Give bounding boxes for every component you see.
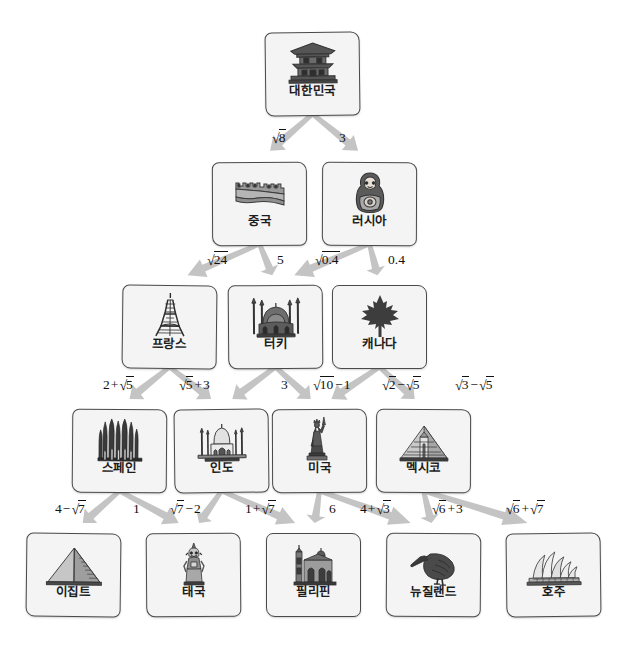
- edge-arrow-usa-to-philippines: [306, 491, 325, 523]
- edge-arrow-korea-to-russia: [311, 112, 358, 151]
- maple-leaf-icon: [333, 286, 426, 338]
- node-label: 필리핀: [296, 586, 331, 605]
- node-card-thailand[interactable]: 태국: [146, 533, 242, 618]
- edge-weight-usa-to-newzealand: 4+√3: [360, 502, 391, 516]
- edge-weight-mexico-to-newzealand: √6+3: [432, 502, 463, 516]
- node-label: 스페인: [102, 462, 137, 481]
- node-card-usa[interactable]: 미국: [272, 409, 367, 493]
- edge-weight-korea-to-russia: 3: [339, 131, 346, 145]
- edge-weight-canada-to-mexico: √3−√5: [455, 378, 494, 392]
- eiffel-tower-icon: [123, 285, 217, 338]
- node-card-india[interactable]: 인도: [174, 408, 270, 493]
- edge-arrow-russia-to-canada: [367, 243, 385, 275]
- node-label: 터키: [264, 338, 288, 357]
- node-label: 태국: [182, 586, 206, 605]
- edge-weight-france-to-spain: 2+√5: [103, 378, 134, 392]
- node-card-newzealand[interactable]: 뉴질랜드: [386, 533, 482, 618]
- edge-weight-russia-to-turkey: √0.4: [315, 253, 340, 267]
- node-label: 캐나다: [362, 338, 397, 357]
- edge-arrow-france-to-spain: [130, 365, 171, 399]
- node-label: 호주: [542, 586, 566, 605]
- node-card-russia[interactable]: 러시아: [322, 162, 417, 246]
- node-label: 러시아: [352, 215, 387, 234]
- edge-weight-canada-to-usa: √2−√5: [382, 378, 421, 392]
- great-wall-icon: [213, 163, 306, 215]
- node-card-spain[interactable]: 스페인: [72, 409, 168, 494]
- edge-weight-india-to-thailand: √7−2: [170, 502, 201, 516]
- edge-weight-russia-to-canada: 0.4: [388, 253, 405, 267]
- edge-weight-china-to-turkey: 5: [277, 253, 284, 267]
- node-label: 뉴질랜드: [410, 586, 457, 605]
- church-icon: [267, 534, 360, 586]
- edge-weight-turkey-to-india: 3: [281, 378, 288, 392]
- sagrada-familia-icon: [73, 410, 166, 463]
- opera-house-icon: [507, 533, 601, 586]
- taj-mahal-icon: [175, 409, 269, 462]
- edge-weight-spain-to-egypt: 4−√7: [55, 502, 86, 516]
- node-label: 중국: [248, 215, 271, 234]
- node-label: 이집트: [56, 586, 91, 605]
- node-card-philippines[interactable]: 필리핀: [266, 533, 361, 617]
- edge-weight-spain-to-thailand: 1: [133, 502, 140, 516]
- edge-weight-mexico-to-australia: √6+√7: [506, 502, 545, 516]
- edge-arrow-turkey-to-india: [232, 365, 277, 399]
- tree-diagram: 대한민국 중국 러시아 프랑스 터키 캐나다: [0, 0, 639, 660]
- node-card-korea[interactable]: 대한민국: [265, 31, 361, 116]
- node-label: 대한민국: [289, 85, 336, 104]
- statue-of-liberty-icon: [273, 410, 366, 462]
- node-card-turkey[interactable]: 터키: [228, 285, 324, 370]
- matryoshka-icon: [323, 163, 416, 215]
- node-card-china[interactable]: 중국: [212, 162, 307, 246]
- pagoda-icon: [266, 32, 360, 85]
- node-label: 인도: [210, 462, 234, 481]
- node-label: 멕시코: [406, 462, 441, 481]
- edge-weight-china-to-france: √24: [207, 253, 228, 267]
- edge-weight-usa-to-philippines: 6: [329, 502, 336, 516]
- edge-arrow-spain-to-egypt: [83, 489, 121, 523]
- node-card-mexico[interactable]: 멕시코: [376, 409, 471, 493]
- edge-weight-france-to-india: √5+3: [179, 378, 210, 392]
- kiwi-bird-icon: [387, 534, 480, 587]
- mayan-pyramid-icon: [377, 410, 470, 462]
- edge-weight-korea-to-china: √8: [272, 131, 286, 145]
- thai-statue-icon: [147, 534, 240, 587]
- edge-weight-india-to-philippines: 1+√7: [245, 502, 276, 516]
- node-label: 미국: [308, 462, 331, 481]
- edge-weight-turkey-to-usa: √10−1: [313, 378, 351, 392]
- edge-arrow-turkey-to-usa: [274, 365, 311, 399]
- edge-arrow-china-to-turkey: [257, 243, 278, 275]
- node-label: 프랑스: [152, 338, 187, 357]
- blue-mosque-icon: [229, 286, 322, 339]
- node-card-canada[interactable]: 캐나다: [332, 285, 427, 369]
- pyramid-icon: [27, 533, 121, 586]
- node-card-france[interactable]: 프랑스: [122, 284, 218, 369]
- node-card-australia[interactable]: 호주: [506, 532, 602, 617]
- node-card-egypt[interactable]: 이집트: [26, 532, 122, 617]
